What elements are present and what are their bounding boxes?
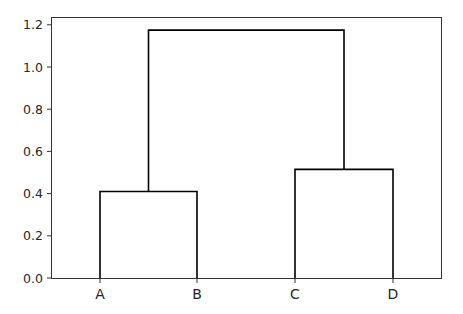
y-tick-label: 0.4 bbox=[23, 186, 43, 201]
leaf-label-b: B bbox=[192, 286, 202, 302]
y-tick-label: 0.6 bbox=[23, 144, 43, 159]
y-tick-label: 0.8 bbox=[23, 102, 43, 117]
leaf-label-a: A bbox=[95, 286, 105, 302]
y-axis: 0.00.20.40.60.81.01.2 bbox=[23, 17, 51, 285]
leaf-label-d: D bbox=[388, 286, 399, 302]
y-tick-label: 0.0 bbox=[23, 271, 43, 286]
y-tick-label: 0.2 bbox=[23, 228, 43, 243]
leaf-label-c: C bbox=[290, 286, 300, 302]
y-tick-label: 1.0 bbox=[23, 60, 43, 75]
y-tick-label: 1.2 bbox=[23, 17, 43, 32]
x-axis: ABCD bbox=[95, 279, 398, 303]
plot-area bbox=[52, 18, 442, 279]
dendrogram-chart: 0.00.20.40.60.81.01.2 ABCD bbox=[0, 0, 463, 314]
